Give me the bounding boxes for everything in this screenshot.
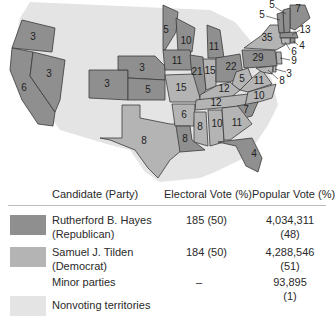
electoral-vote: 184 (50) [186,245,227,259]
popular-vote-pct: (51) [260,259,320,273]
label-KY: 12 [218,83,230,94]
label-CA: 6 [21,82,27,93]
header-electoral-vote: Electoral Vote (%) [164,188,252,200]
label-KS: 5 [145,84,151,95]
label-WI: 10 [180,35,192,46]
candidate-name: Nonvoting territories [52,298,150,312]
candidate-name: Samuel J. Tilden [52,245,133,259]
election-map-1876: 3 6 3 3 3 5 8 5 10 11 11 21 15 22 15 12 … [0,0,326,190]
label-MI: 11 [209,41,220,52]
candidate-name: Rutherford B. Hayes [52,213,152,227]
label-TN: 12 [210,97,222,108]
label-MD: 8 [279,75,285,86]
popular-vote: 4,034,311 [260,213,320,227]
candidate-party: (Democrat) [52,259,133,273]
label-IL: 21 [191,66,203,77]
label-VT: 5 [259,9,265,20]
label-NY: 35 [261,32,273,43]
label-NJ: 9 [291,55,297,66]
label-LA: 8 [182,133,188,144]
candidate-party: (Republican) [52,227,152,241]
label-MN: 5 [163,24,169,35]
nonvoting-swatch [10,296,46,316]
label-WV: 5 [239,73,245,84]
label-GA: 11 [232,117,243,128]
label-NE: 3 [139,62,145,73]
label-ME: 7 [295,3,301,14]
popular-vote-pct: (1) [260,289,320,303]
democrat-swatch [10,247,46,267]
label-FL: 4 [251,148,257,159]
electoral-vote: – [196,275,202,289]
label-OR: 3 [30,31,36,42]
label-NC: 10 [253,90,265,101]
republican-swatch [10,215,46,235]
header-popular-vote: Popular Vote (%) [252,188,335,200]
label-SC: 7 [243,104,249,115]
popular-vote: 4,288,546 [260,245,320,259]
label-VA: 11 [254,75,265,86]
legend-table: Candidate (Party) Electoral Vote (%) Pop… [0,188,326,316]
label-MS: 8 [197,121,203,132]
label-IN: 15 [204,65,216,76]
label-DE: 3 [286,68,292,79]
label-OH: 22 [225,61,237,72]
label-NH: 5 [269,0,275,10]
candidate-name: Minor parties [52,275,116,289]
label-AR: 6 [181,109,187,120]
header-divider [8,205,326,206]
label-RI: 4 [299,40,305,51]
label-CO: 3 [104,78,110,89]
popular-vote: 93,895 [260,275,320,289]
label-MA: 13 [299,24,311,35]
label-MO: 15 [175,82,187,93]
electoral-vote: 185 (50) [186,213,227,227]
label-PA: 29 [252,52,264,63]
label-NV: 3 [46,68,52,79]
label-TX: 8 [141,135,147,146]
header-candidate: Candidate (Party) [52,188,138,200]
label-AL: 10 [211,118,223,129]
label-IA: 11 [172,55,183,66]
popular-vote-pct: (48) [260,227,320,241]
